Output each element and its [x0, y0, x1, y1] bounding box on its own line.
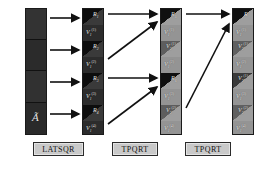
column-input-matrix: Ã: [25, 8, 47, 135]
block-R3: R3: [83, 73, 103, 89]
label-R3: R3: [93, 75, 99, 84]
arrow-1-to-2-bottom-diagonal: [108, 87, 157, 124]
label-R: R: [244, 11, 248, 17]
block-R1: R1: [83, 9, 103, 25]
label-V2-1: V2(1): [238, 43, 248, 52]
routine-box-tpqrt-1[interactable]: TPQRT: [112, 142, 158, 156]
block-V1-3: V1(3): [83, 89, 103, 105]
block-V1-4: V1(4): [233, 121, 253, 135]
arrow-1-to-2-top-diagonal: [108, 22, 157, 59]
block-V1-1: V1(1): [83, 25, 103, 41]
triangle-wedge: [233, 9, 253, 25]
routine-box-tpqrt-2[interactable]: TPQRT: [185, 142, 231, 156]
label-V1-3: V1(3): [236, 93, 246, 102]
routine-label-latsqr: LATSQR: [42, 145, 75, 154]
label-R2: R2: [93, 43, 99, 52]
label-R5: R5: [171, 11, 177, 20]
block-V3-1: V3(1): [233, 73, 253, 89]
label-R6: R6: [171, 75, 177, 84]
column-tpqrt-level-2-output: R V1(1) V2(1) V1(2) V3(1): [232, 8, 254, 135]
arrow-2-to-3-diagonal: [186, 24, 229, 108]
block-V1-3: V1(3): [233, 89, 253, 105]
label-V1-4: V1(4): [164, 125, 174, 134]
diagram-canvas: Ã R1 V1(1) R2 V1(2): [0, 0, 263, 170]
label-V1-2: V1(2): [236, 61, 246, 70]
matrix-segment: Ã: [26, 103, 46, 134]
label-V1-3: V1(3): [164, 93, 174, 102]
label-V1-4: V1(4): [236, 125, 246, 134]
matrix-label-A: Ã: [32, 112, 39, 123]
block-V1-2: V1(2): [83, 57, 103, 73]
label-V1-2: V1(2): [164, 61, 174, 70]
block-V2-1: V2(1): [233, 41, 253, 57]
matrix-segment: [26, 9, 46, 40]
block-V1-2: V1(2): [161, 57, 181, 73]
block-V2-2: V2(2): [161, 105, 181, 121]
label-V1-3: V1(3): [86, 93, 96, 102]
block-R5: R5: [161, 9, 181, 25]
column-tpqrt-level-1-output: R5 V1(1) V2(1) V1(2) R6: [160, 8, 182, 135]
block-R: R: [233, 9, 253, 25]
block-V1-2: V1(2): [233, 57, 253, 73]
label-V2-2: V2(2): [238, 107, 248, 116]
block-R2: R2: [83, 41, 103, 57]
block-V1-3: V1(3): [161, 89, 181, 105]
label-R1: R1: [93, 11, 99, 20]
label-V1-1: V1(1): [86, 29, 96, 38]
block-R6: R6: [161, 73, 181, 89]
block-V1-1: V1(1): [161, 25, 181, 41]
block-V1-4: V1(4): [83, 121, 103, 135]
label-V1-2: V1(2): [86, 61, 96, 70]
label-V2-2: V2(2): [166, 107, 176, 116]
matrix-segment: [26, 71, 46, 103]
routine-box-latsqr[interactable]: LATSQR: [33, 142, 84, 156]
block-V1-4: V1(4): [161, 121, 181, 135]
block-R4: R4: [83, 105, 103, 121]
label-V2-1: V2(1): [166, 43, 176, 52]
label-R4: R4: [93, 107, 99, 116]
label-V1-4: V1(4): [86, 125, 96, 134]
label-V3-1: V3(1): [238, 75, 248, 84]
column-latsqr-output: R1 V1(1) R2 V1(2) R3 V1(: [82, 8, 104, 135]
matrix-segment: [26, 40, 46, 71]
block-V1-1: V1(1): [233, 25, 253, 41]
label-V1-1: V1(1): [236, 29, 246, 38]
block-V2-2: V2(2): [233, 105, 253, 121]
routine-label-tpqrt-2: TPQRT: [195, 145, 222, 154]
label-V1-1: V1(1): [164, 29, 174, 38]
block-V2-1: V2(1): [161, 41, 181, 57]
routine-label-tpqrt-1: TPQRT: [122, 145, 149, 154]
